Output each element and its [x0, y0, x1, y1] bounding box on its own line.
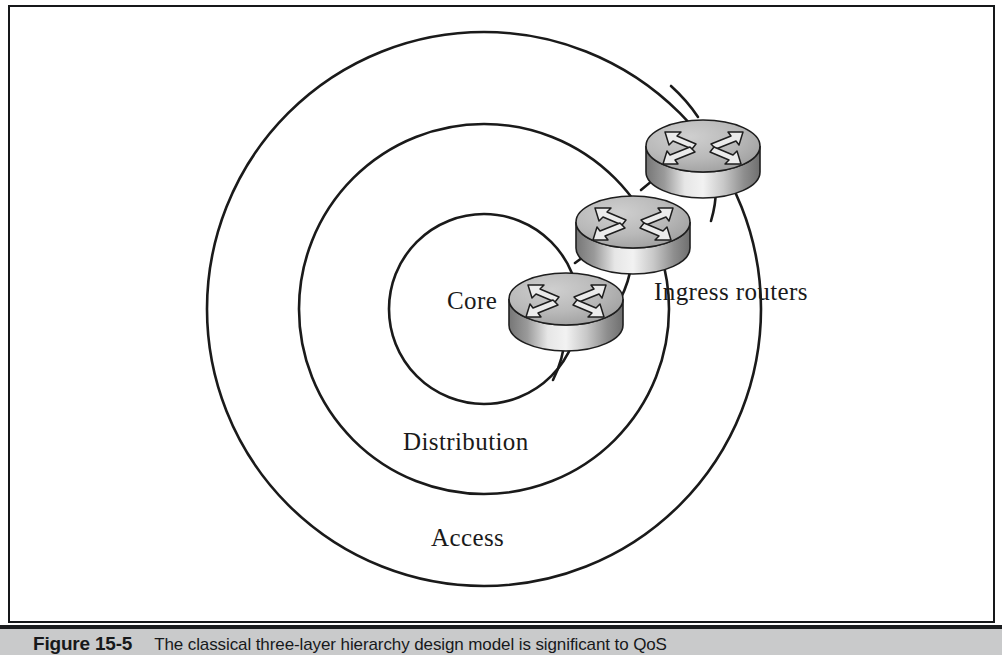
ring-label-distribution: Distribution: [403, 428, 529, 456]
router-distribution-node[interactable]: [576, 196, 690, 274]
figure-caption: Figure 15-5The classical three-layer hie…: [33, 633, 667, 655]
annotation-label-ingress-routers: Ingress routers: [654, 278, 808, 306]
ring-label-access: Access: [431, 524, 504, 552]
figure-page: Core Distribution Access Ingress routers…: [0, 0, 1002, 655]
router-access-node[interactable]: [646, 120, 760, 198]
ring-label-core: Core: [447, 287, 497, 315]
figure-caption-band: Figure 15-5The classical three-layer hie…: [0, 625, 1002, 655]
router-core-node[interactable]: [509, 273, 623, 351]
figure-caption-text: The classical three-layer hierarchy desi…: [154, 635, 667, 654]
figure-caption-number: Figure 15-5: [33, 633, 132, 654]
